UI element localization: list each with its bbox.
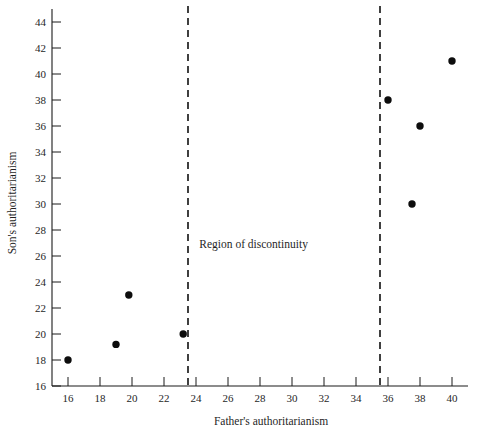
y-tick-label: 20 [35, 328, 47, 340]
y-tick-label: 30 [35, 198, 47, 210]
data-point-marker [408, 200, 415, 207]
axes: 1618202224262830323436384042441618202224… [35, 9, 468, 404]
y-tick-label: 34 [35, 146, 47, 158]
x-tick-label: 22 [159, 392, 170, 404]
region-of-discontinuity-label: Region of discontinuity [199, 238, 308, 251]
data-points [64, 57, 455, 363]
y-tick-label: 32 [35, 172, 46, 184]
y-tick-label: 28 [35, 224, 47, 236]
y-tick-label: 26 [35, 250, 47, 262]
y-tick-label: 40 [35, 68, 47, 80]
y-tick-label: 24 [35, 276, 47, 288]
scatter-plot-figure: 1618202224262830323436384042441618202224… [0, 0, 501, 435]
y-tick-label: 22 [35, 302, 46, 314]
x-tick-label: 40 [447, 392, 459, 404]
x-tick-label: 36 [383, 392, 395, 404]
data-point-marker [112, 341, 119, 348]
y-tick-label: 16 [35, 380, 47, 392]
x-tick-label: 24 [191, 392, 203, 404]
x-axis-title: Father's authoritarianism [214, 415, 328, 427]
plot-canvas: 1618202224262830323436384042441618202224… [0, 0, 501, 435]
y-tick-label: 38 [35, 94, 47, 106]
data-point-marker [125, 291, 132, 298]
y-tick-label: 42 [35, 42, 46, 54]
discontinuity-lines [188, 6, 380, 386]
data-point-marker [64, 356, 71, 363]
x-tick-label: 18 [95, 392, 107, 404]
y-tick-label: 36 [35, 120, 47, 132]
y-tick-label: 44 [35, 16, 47, 28]
data-point-marker [180, 330, 187, 337]
x-tick-label: 16 [63, 392, 75, 404]
x-tick-label: 26 [223, 392, 235, 404]
data-point-marker [384, 96, 391, 103]
x-tick-label: 30 [287, 392, 299, 404]
x-tick-label: 38 [415, 392, 427, 404]
y-tick-label: 18 [35, 354, 47, 366]
data-point-marker [416, 122, 423, 129]
x-tick-label: 20 [127, 392, 139, 404]
annotations: Region of discontinuity [199, 238, 308, 251]
x-tick-label: 28 [255, 392, 267, 404]
x-tick-label: 32 [319, 392, 330, 404]
data-point-marker [448, 57, 455, 64]
x-tick-label: 34 [351, 392, 363, 404]
y-axis-title: Son's authoritarianism [6, 152, 18, 255]
